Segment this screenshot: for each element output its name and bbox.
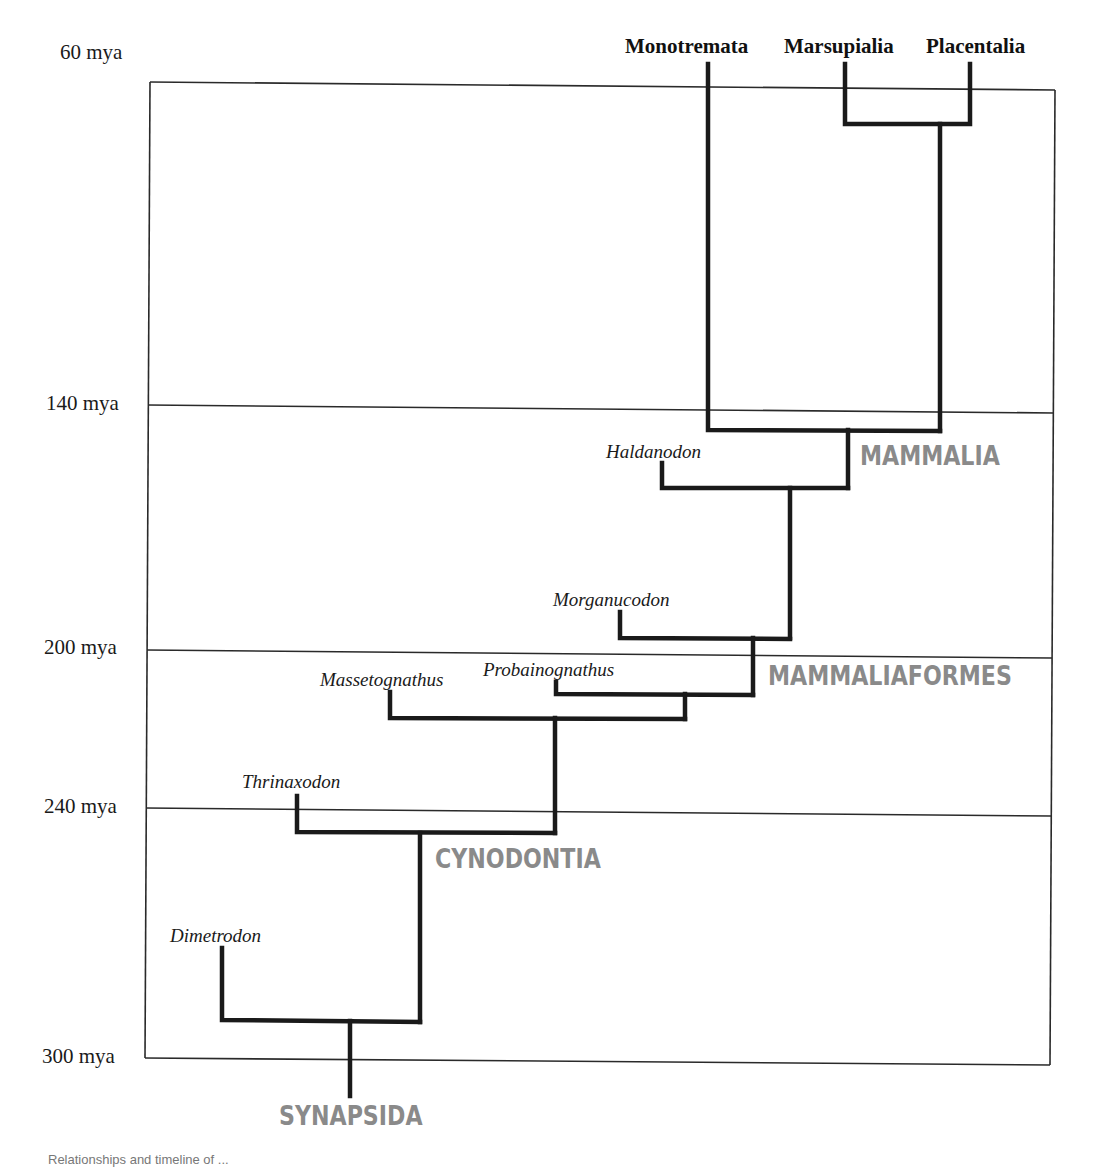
time-frame	[145, 82, 1055, 1065]
branch-haldanodon	[662, 463, 848, 488]
branch-thrinaxodon	[297, 796, 555, 833]
branch-marsupialia-placentalia	[845, 64, 970, 124]
branch-dimetrodon	[222, 948, 420, 1022]
taxon-dimetrodon: Dimetrodon	[170, 925, 261, 947]
axis-label-300mya: 300 mya	[42, 1044, 115, 1069]
branch-probainognathus	[556, 682, 753, 695]
gridline-200mya	[147, 650, 1052, 658]
frame-right-border	[1050, 90, 1055, 1065]
gridline-140mya	[148, 405, 1054, 413]
frame-left-border	[145, 82, 150, 1058]
axis-label-60mya: 60 mya	[60, 40, 122, 65]
figure-caption: Relationships and timeline of ...	[48, 1152, 229, 1167]
taxon-haldanodon: Haldanodon	[606, 441, 701, 463]
taxon-placentalia: Placentalia	[926, 34, 1025, 59]
tree-branches	[222, 64, 970, 1096]
gridline-300mya	[145, 1058, 1050, 1065]
gridline-60mya	[150, 82, 1055, 90]
branch-morganucodon	[620, 612, 790, 639]
clade-label-synapsida: SYNAPSIDA	[279, 1100, 423, 1131]
branch-monotremata	[708, 64, 940, 431]
taxon-monotremata: Monotremata	[625, 34, 748, 59]
taxon-morganucodon: Morganucodon	[553, 589, 669, 611]
taxon-massetognathus: Massetognathus	[320, 669, 444, 691]
clade-label-cynodontia: CYNODONTIA	[435, 843, 601, 874]
axis-label-240mya: 240 mya	[44, 794, 117, 819]
axis-label-140mya: 140 mya	[46, 391, 119, 416]
gridline-240mya	[146, 808, 1051, 816]
taxon-probainognathus: Probainognathus	[483, 659, 614, 681]
taxon-marsupialia: Marsupialia	[784, 34, 894, 59]
taxon-thrinaxodon: Thrinaxodon	[242, 771, 340, 793]
axis-label-200mya: 200 mya	[44, 635, 117, 660]
clade-label-mammalia: MAMMALIA	[860, 440, 1000, 471]
clade-label-mammaliaformes: MAMMALIAFORMES	[768, 660, 1012, 691]
